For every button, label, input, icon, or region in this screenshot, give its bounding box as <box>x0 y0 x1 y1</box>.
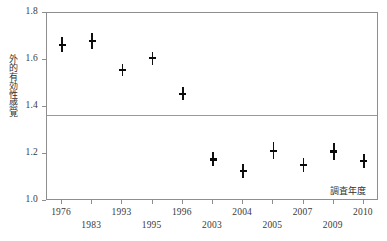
y-tick-label: 1.6 <box>16 53 38 63</box>
x-tick-label: 1983 <box>74 220 108 230</box>
y-tick-mark <box>42 59 46 60</box>
x-tick-label: 1996 <box>165 207 199 217</box>
x-tick-label: 2009 <box>316 220 350 230</box>
point-marker <box>89 40 96 42</box>
y-tick-label: 1.8 <box>16 6 38 16</box>
point-marker <box>300 164 307 166</box>
x-tick-mark <box>212 200 213 204</box>
point-marker <box>330 150 337 152</box>
x-tick-mark <box>303 200 304 204</box>
y-tick-label: 1.4 <box>16 100 38 110</box>
x-tick-label: 1976 <box>44 207 78 217</box>
x-tick-label: 1993 <box>104 207 138 217</box>
reference-line <box>47 115 377 116</box>
x-tick-label: 2007 <box>286 207 320 217</box>
x-tick-mark <box>121 200 122 204</box>
x-tick-mark <box>363 200 364 204</box>
x-tick-mark <box>333 200 334 204</box>
x-tick-mark <box>272 200 273 204</box>
chart-figure: 外的有効性感覚 1.01.21.41.61.8 1976198319931995… <box>0 0 387 241</box>
point-marker <box>360 160 367 162</box>
x-tick-mark <box>182 200 183 204</box>
x-tick-mark <box>152 200 153 204</box>
point-marker <box>270 150 277 152</box>
y-tick-label: 1.2 <box>16 147 38 157</box>
x-tick-label: 2005 <box>255 220 289 230</box>
x-tick-label: 2003 <box>195 220 229 230</box>
x-tick-mark <box>242 200 243 204</box>
y-tick-label: 1.0 <box>16 194 38 204</box>
y-tick-mark <box>42 153 46 154</box>
point-marker <box>240 170 247 172</box>
x-axis-label: 調査年度 <box>330 184 366 197</box>
point-marker <box>149 57 156 59</box>
x-tick-label: 2004 <box>225 207 259 217</box>
y-tick-mark <box>42 12 46 13</box>
plot-frame <box>46 12 378 200</box>
x-tick-mark <box>91 200 92 204</box>
point-marker <box>119 69 126 71</box>
x-tick-label: 2010 <box>346 207 380 217</box>
x-tick-mark <box>61 200 62 204</box>
y-tick-mark <box>42 200 46 201</box>
y-tick-mark <box>42 106 46 107</box>
plot-area <box>47 13 377 199</box>
x-tick-label: 1995 <box>135 220 169 230</box>
point-marker <box>59 44 66 46</box>
point-marker <box>210 158 217 160</box>
point-marker <box>179 93 186 95</box>
